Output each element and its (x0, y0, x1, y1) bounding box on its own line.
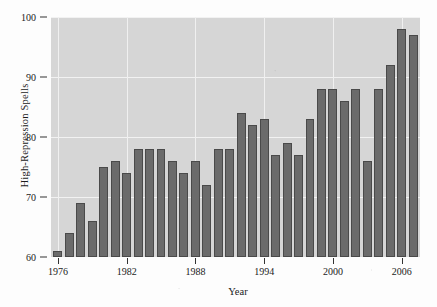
y-axis-tick-mark (40, 137, 47, 138)
bar (145, 149, 154, 257)
chart-figure: High-Repression Spells 60708090100 Year … (0, 0, 437, 307)
bar (111, 161, 120, 257)
x-axis-tick-label: 1976 (48, 266, 68, 277)
y-axis-tick-label: 60 (6, 252, 36, 263)
bar (260, 119, 269, 257)
bar (271, 155, 280, 257)
bar (283, 143, 292, 257)
y-axis-tick-label: 90 (6, 72, 36, 83)
bar (122, 173, 131, 257)
bar (157, 149, 166, 257)
y-axis-tick-label: 80 (6, 132, 36, 143)
plot-area (51, 17, 420, 257)
bar (237, 113, 246, 257)
bar (248, 125, 257, 257)
gridline-vertical (58, 17, 59, 257)
bar (53, 251, 62, 257)
gridline-horizontal (51, 77, 420, 78)
bar (134, 149, 143, 257)
bar (328, 89, 337, 257)
bar (340, 101, 349, 257)
x-axis-tick-mark (127, 258, 128, 264)
x-axis-tick-mark (195, 258, 196, 264)
x-axis-tick-mark (402, 258, 403, 264)
bar (179, 173, 188, 257)
gridline-horizontal (51, 17, 420, 18)
bar (374, 89, 383, 257)
bar (202, 185, 211, 257)
x-axis-tick-label: 2000 (323, 266, 343, 277)
bar (168, 161, 177, 257)
y-axis-tick-label: 100 (6, 12, 36, 23)
bar (225, 149, 234, 257)
bar (76, 203, 85, 257)
gridline-horizontal (51, 137, 420, 138)
y-axis-tick-label: 70 (6, 192, 36, 203)
bar (409, 35, 418, 257)
x-axis-tick-mark (264, 258, 265, 264)
bar (214, 149, 223, 257)
bar (397, 29, 406, 257)
x-axis-tick-label: 1982 (117, 266, 137, 277)
bar (191, 161, 200, 257)
x-axis-label: Year (56, 286, 420, 297)
x-axis-tick-mark (58, 258, 59, 264)
bar (294, 155, 303, 257)
bar (317, 89, 326, 257)
y-axis-tick-mark (40, 197, 47, 198)
bar (65, 233, 74, 257)
y-axis-tick-mark (40, 17, 47, 18)
bar (88, 221, 97, 257)
x-axis-tick-label: 2006 (392, 266, 412, 277)
y-axis-tick-labels: 60708090100 (6, 0, 36, 307)
bar (363, 161, 372, 257)
bar (99, 167, 108, 257)
bar (386, 65, 395, 257)
x-axis-tick-mark (333, 258, 334, 264)
x-axis-tick-label: 1988 (185, 266, 205, 277)
y-axis-tick-mark (40, 77, 47, 78)
y-axis-tick-mark (40, 257, 47, 258)
bar (306, 119, 315, 257)
bar (351, 89, 360, 257)
x-axis-tick-label: 1994 (254, 266, 274, 277)
